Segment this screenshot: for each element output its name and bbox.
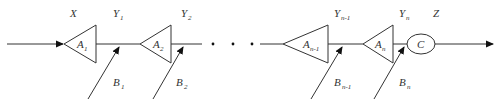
svg-text:n: n	[382, 45, 386, 53]
disturbance-label-b1: B	[113, 76, 120, 88]
svg-text:2: 2	[184, 83, 188, 91]
output-label-z: Z	[433, 7, 440, 19]
input-label-x: X	[69, 7, 78, 19]
svg-text:n-1: n-1	[341, 14, 350, 22]
svg-text:n: n	[407, 83, 411, 91]
svg-text:1: 1	[84, 45, 88, 53]
disturbance-label-bn-1: B	[334, 76, 341, 88]
chain-diagram: A 1 A 2 A n-1 A n C X Y 1 Y 2 Y n-1 Y	[0, 0, 498, 107]
svg-text:2: 2	[188, 14, 192, 22]
block-an: A n	[363, 25, 393, 63]
block-an-label: A	[374, 38, 382, 50]
svg-text:1: 1	[120, 14, 124, 22]
svg-text:n-1: n-1	[342, 83, 351, 91]
block-a1-label: A	[76, 38, 84, 50]
block-a2: A 2	[140, 25, 171, 63]
block-c-label: C	[417, 38, 425, 50]
block-c: C	[407, 34, 435, 54]
svg-text:2: 2	[160, 45, 164, 53]
ellipsis-dots	[212, 43, 254, 46]
svg-text:1: 1	[121, 83, 125, 91]
disturbance-label-bn: B	[399, 76, 406, 88]
block-an-1: A n-1	[283, 25, 328, 63]
svg-text:n-1: n-1	[310, 45, 319, 53]
svg-text:n: n	[406, 14, 410, 22]
block-a2-label: A	[152, 38, 160, 50]
disturbance-label-b2: B	[176, 76, 183, 88]
block-an-1-label: A	[302, 38, 310, 50]
block-a1: A 1	[64, 25, 96, 63]
